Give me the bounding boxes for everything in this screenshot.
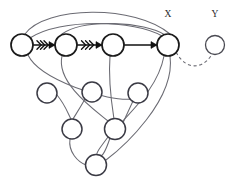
nodes-group xyxy=(11,34,225,176)
graph-node[interactable] xyxy=(11,34,33,56)
node-labels-group: XY xyxy=(165,9,219,19)
dashed-edges-group xyxy=(176,52,212,66)
graph-edge xyxy=(30,24,162,39)
graph-edge xyxy=(97,137,108,155)
graph-node-y[interactable] xyxy=(206,36,225,55)
label-x: X xyxy=(165,9,172,19)
graph-node[interactable] xyxy=(128,83,148,103)
graph-edge-dashed xyxy=(176,52,212,66)
graph-node[interactable] xyxy=(82,82,102,102)
graph-canvas: XY xyxy=(0,0,245,190)
graph-node[interactable] xyxy=(105,119,126,140)
graph-edge xyxy=(109,56,114,119)
label-y: Y xyxy=(212,9,219,19)
graph-node[interactable] xyxy=(102,34,124,56)
graph-edge xyxy=(70,139,86,165)
graph-node[interactable] xyxy=(55,34,77,56)
graph-node[interactable] xyxy=(37,83,57,103)
chain-edges-group xyxy=(33,41,157,49)
graph-diagram-container: XY xyxy=(0,0,245,190)
graph-edge xyxy=(73,99,85,119)
graph-edge xyxy=(106,56,170,160)
edge-arrowhead xyxy=(96,42,102,49)
graph-node[interactable] xyxy=(86,155,107,176)
edge-arrowhead xyxy=(151,42,157,49)
graph-edge xyxy=(57,95,71,119)
edge-arrowhead xyxy=(49,42,55,49)
graph-node[interactable] xyxy=(62,119,82,139)
graph-node-x[interactable] xyxy=(157,34,179,56)
